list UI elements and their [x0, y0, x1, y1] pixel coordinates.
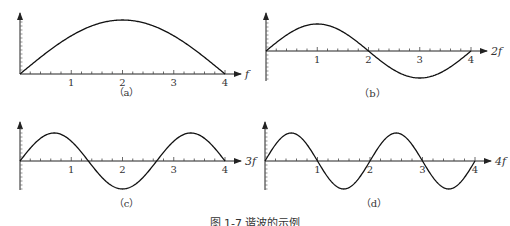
x-tick-label: 3	[171, 77, 177, 88]
x-tick-label: 2	[119, 164, 125, 175]
x-axis-label: 4f	[494, 155, 508, 168]
x-tick-label: 3	[171, 164, 177, 175]
panel-label: （b）	[359, 88, 385, 99]
x-tick-label: 1	[68, 77, 74, 88]
panel-a: 1234f（a）	[20, 13, 251, 98]
x-axis-label: 3f	[245, 155, 258, 168]
waveform-curve	[20, 20, 225, 74]
panel-label: （c）	[114, 198, 140, 209]
x-tick-label: 4	[222, 164, 228, 175]
x-axis-label: 2f	[490, 45, 504, 58]
x-axis-label: f	[244, 68, 251, 81]
x-tick-label: 2	[365, 54, 371, 65]
figure-caption: 图 1-7 谐波的示例	[0, 217, 510, 226]
panel-label: （a）	[114, 87, 140, 98]
x-tick-label: 1	[68, 164, 74, 175]
panel-b: 12342f（b）	[266, 13, 504, 99]
x-tick-label: 4	[468, 54, 474, 65]
x-tick-label: 3	[417, 54, 423, 65]
x-tick-label: 4	[222, 77, 228, 88]
panel-c: 12343f（c）	[20, 122, 258, 209]
panel-d: 12344f（d）	[265, 122, 508, 209]
figure-canvas: 1234f（a） 12342f（b） 12343f（c） 12344f（d）	[0, 0, 510, 226]
x-tick-label: 1	[314, 54, 320, 65]
panel-label: （d）	[361, 198, 387, 209]
